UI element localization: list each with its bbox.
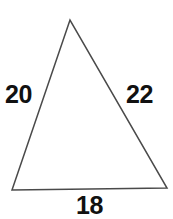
triangle-shape [0, 0, 173, 219]
side-length-label-base: 18 [76, 193, 103, 218]
side-length-label-right: 22 [126, 82, 153, 107]
side-length-label-left: 20 [5, 82, 32, 107]
triangle-figure: 20 22 18 [0, 0, 173, 219]
